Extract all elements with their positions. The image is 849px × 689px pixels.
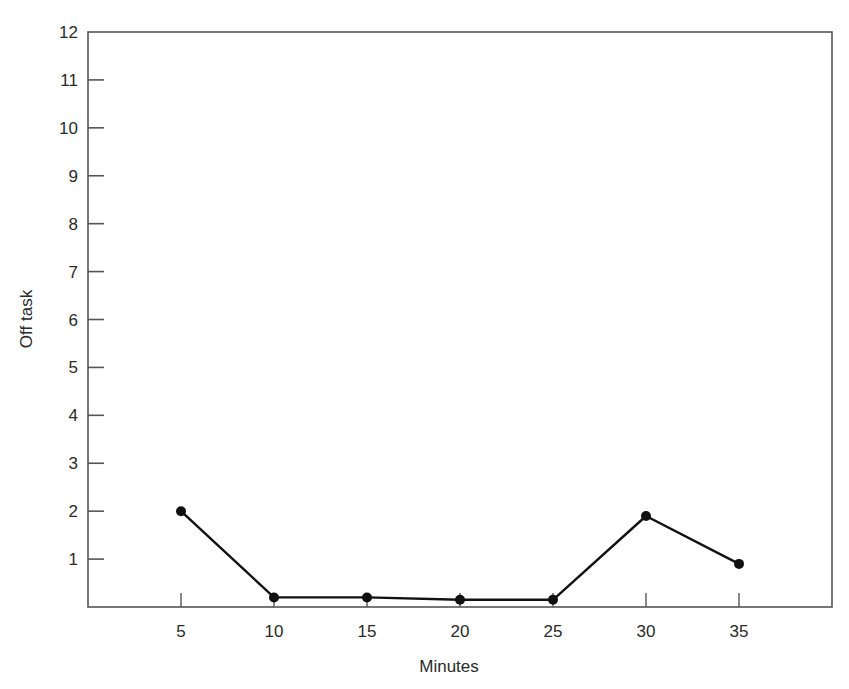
data-point-marker xyxy=(548,595,558,605)
y-axis-title: Off task xyxy=(17,289,36,348)
series-line xyxy=(181,511,739,600)
data-point-marker xyxy=(734,559,744,569)
x-tick-label: 30 xyxy=(637,622,656,641)
plot-frame xyxy=(88,32,832,607)
y-tick-label: 11 xyxy=(60,71,78,90)
data-point-marker xyxy=(362,592,372,602)
plot-border xyxy=(88,32,832,607)
x-tick-label: 5 xyxy=(176,622,185,641)
y-tick-label: 9 xyxy=(69,167,78,186)
y-tick-label: 2 xyxy=(69,502,78,521)
data-point-marker xyxy=(176,506,186,516)
y-tick-label: 4 xyxy=(69,406,78,425)
y-tick-label: 3 xyxy=(69,454,78,473)
data-point-marker xyxy=(269,592,279,602)
data-series xyxy=(176,506,744,605)
y-tick-label: 10 xyxy=(59,119,78,138)
y-tick-label: 6 xyxy=(69,311,78,330)
x-tick-label: 15 xyxy=(358,622,377,641)
y-tick-label: 5 xyxy=(69,358,78,377)
x-tick-label: 20 xyxy=(451,622,470,641)
x-tick-label: 10 xyxy=(265,622,284,641)
y-axis-ticks: 123456789101112 xyxy=(59,23,104,569)
y-tick-label: 12 xyxy=(59,23,78,42)
line-chart: 123456789101112 5101520253035 Minutes Of… xyxy=(0,0,849,689)
y-tick-label: 1 xyxy=(69,550,78,569)
x-tick-label: 25 xyxy=(544,622,563,641)
data-point-marker xyxy=(455,595,465,605)
x-tick-label: 35 xyxy=(730,622,749,641)
y-tick-label: 7 xyxy=(69,263,78,282)
y-tick-label: 8 xyxy=(69,215,78,234)
data-point-marker xyxy=(641,511,651,521)
x-axis-title: Minutes xyxy=(419,657,479,676)
